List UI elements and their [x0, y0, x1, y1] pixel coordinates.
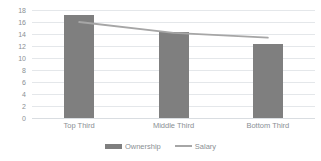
y-axis-tick-label: 18: [2, 7, 26, 14]
bar-swatch-icon: [105, 144, 122, 149]
line-salary: [79, 22, 268, 38]
y-axis-tick-label: 8: [2, 67, 26, 74]
y-axis-tick-label: 14: [2, 31, 26, 38]
y-axis-tick-label: 4: [2, 91, 26, 98]
legend-item-salary[interactable]: Salary: [175, 142, 216, 151]
line-swatch-icon: [175, 145, 192, 147]
y-axis: 181614121086420: [0, 0, 32, 161]
x-axis-label-top-third: Top Third: [39, 121, 119, 130]
axis-baseline: [32, 118, 315, 119]
x-axis: Top ThirdMiddle ThirdBottom Third: [32, 121, 315, 135]
x-axis-label-middle-third: Middle Third: [134, 121, 214, 130]
y-axis-tick-label: 6: [2, 79, 26, 86]
legend-label: Salary: [195, 142, 216, 151]
chart-legend: OwnershipSalary: [0, 139, 321, 153]
y-axis-tick-label: 16: [2, 19, 26, 26]
y-axis-tick-label: 12: [2, 43, 26, 50]
salary-line-series: [32, 10, 315, 118]
y-axis-tick-label: 0: [2, 115, 26, 122]
chart-container: 181614121086420 Top ThirdMiddle ThirdBot…: [0, 0, 321, 161]
legend-item-ownership[interactable]: Ownership: [105, 142, 161, 151]
x-axis-label-bottom-third: Bottom Third: [228, 121, 308, 130]
y-axis-tick-label: 10: [2, 55, 26, 62]
y-axis-tick-label: 2: [2, 103, 26, 110]
legend-label: Ownership: [125, 142, 161, 151]
plot-area: [32, 10, 315, 118]
